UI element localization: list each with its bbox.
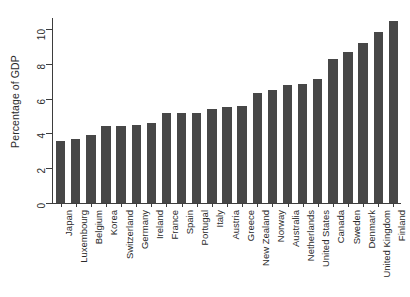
x-axis-tick xyxy=(303,203,304,207)
x-axis-tick xyxy=(318,203,319,207)
x-axis-tick xyxy=(393,203,394,207)
x-axis-label: Spain xyxy=(185,210,195,234)
bar xyxy=(222,107,231,203)
x-axis-tick xyxy=(257,203,258,207)
bar xyxy=(132,125,141,203)
bar xyxy=(101,126,110,203)
bar xyxy=(116,126,125,203)
x-axis-label: Denmark xyxy=(367,210,377,249)
x-axis-tick xyxy=(182,203,183,207)
x-axis-tick xyxy=(333,203,334,207)
x-axis-tick xyxy=(378,203,379,207)
x-axis-label: Japan xyxy=(64,210,74,236)
bar xyxy=(328,59,337,203)
x-axis-tick xyxy=(136,203,137,207)
y-axis-tick-label: 10 xyxy=(37,29,47,71)
bar xyxy=(298,84,307,203)
x-axis-tick xyxy=(348,203,349,207)
x-axis-label: Portugal xyxy=(200,210,210,245)
y-axis-title: Percentage of GDP xyxy=(6,0,24,203)
x-axis-tick xyxy=(197,203,198,207)
x-axis-label: United Kingdom xyxy=(382,210,392,278)
x-axis-tick xyxy=(227,203,228,207)
x-axis-label: New Zealand xyxy=(261,210,271,266)
x-axis-label: Australia xyxy=(291,210,301,247)
x-axis-tick xyxy=(288,203,289,207)
x-axis-label: Switzerland xyxy=(125,210,135,259)
bar xyxy=(162,113,171,203)
x-axis-label: Luxembourg xyxy=(79,210,89,263)
bar xyxy=(56,141,65,203)
x-axis-label: Norway xyxy=(276,210,286,242)
bar-series xyxy=(53,8,401,203)
x-axis-label: Ireland xyxy=(155,210,165,239)
x-axis-label: Sweden xyxy=(352,210,362,244)
bar xyxy=(237,106,246,203)
x-axis-label: Canada xyxy=(336,210,346,243)
bar xyxy=(343,52,352,203)
bar xyxy=(253,93,262,203)
x-axis-label: Italy xyxy=(215,210,225,227)
bar xyxy=(358,43,367,203)
x-axis-tick xyxy=(61,203,62,207)
x-axis-label: Greece xyxy=(246,210,256,241)
x-axis-tick xyxy=(106,203,107,207)
x-axis-tick xyxy=(151,203,152,207)
x-axis-tick xyxy=(242,203,243,207)
x-axis-tick xyxy=(121,203,122,207)
x-axis-label: Belgium xyxy=(94,210,104,244)
bar xyxy=(86,135,95,203)
x-axis-tick xyxy=(363,203,364,207)
x-axis-label: Austria xyxy=(231,210,241,240)
x-axis-label: Finland xyxy=(397,210,407,241)
bar-chart: Percentage of GDP 0246810 JapanLuxembour… xyxy=(0,0,410,297)
x-axis-label: Germany xyxy=(140,210,150,249)
x-axis-tick xyxy=(166,203,167,207)
bar xyxy=(313,79,322,203)
x-axis-label: Korea xyxy=(109,210,119,235)
bar xyxy=(207,109,216,203)
bar xyxy=(268,90,277,203)
bar xyxy=(374,32,383,203)
bar xyxy=(192,113,201,203)
bar xyxy=(71,139,80,203)
bar xyxy=(177,113,186,203)
bar xyxy=(147,123,156,203)
bar xyxy=(389,21,398,203)
x-axis-tick xyxy=(272,203,273,207)
x-axis-label: United States xyxy=(321,210,331,267)
x-axis-tick xyxy=(212,203,213,207)
x-axis-label: France xyxy=(170,210,180,240)
x-axis-tick xyxy=(91,203,92,207)
x-axis-tick xyxy=(76,203,77,207)
bar xyxy=(283,85,292,203)
x-axis-labels: JapanLuxembourgBelgiumKoreaSwitzerlandGe… xyxy=(53,208,401,297)
x-axis-label: Netherlands xyxy=(306,210,316,261)
